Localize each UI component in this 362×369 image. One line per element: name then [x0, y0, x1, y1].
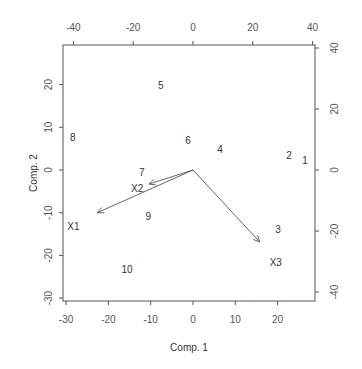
top-tick-label: -40 — [66, 22, 81, 33]
right-tick-label: 20 — [329, 103, 340, 115]
point-label: 6 — [185, 135, 191, 146]
y-tick-label: 20 — [43, 79, 54, 91]
right-tick-label: 40 — [329, 42, 340, 54]
top-tick-label: -20 — [126, 22, 141, 33]
point-label: 5 — [158, 80, 164, 91]
right-tick-label: -40 — [329, 284, 340, 299]
biplot-chart: -30-20-1001020-30-20-1001020-40-2002040-… — [0, 0, 362, 369]
x-axis-title: Comp. 1 — [170, 342, 208, 353]
point-label: 4 — [217, 144, 223, 155]
x-tick-label: 10 — [230, 314, 242, 325]
loading-arrow — [149, 170, 193, 184]
top-tick-label: 40 — [307, 22, 319, 33]
point-label: 3 — [275, 224, 281, 235]
top-tick-label: 20 — [247, 22, 259, 33]
axes: -30-20-1001020-30-20-1001020-40-2002040-… — [43, 22, 340, 325]
point-label: 2 — [286, 150, 292, 161]
x-tick-label: -10 — [143, 314, 158, 325]
y-tick-label: 10 — [43, 121, 54, 133]
point-label: 9 — [145, 211, 151, 222]
right-tick-label: 0 — [329, 167, 340, 173]
point-label: 10 — [121, 264, 133, 275]
variable-label: X1 — [67, 221, 80, 232]
x-tick-label: 20 — [272, 314, 284, 325]
top-tick-label: 0 — [190, 22, 196, 33]
x-tick-label: -20 — [101, 314, 116, 325]
loading-arrow — [193, 170, 260, 242]
variable-label: X3 — [270, 257, 283, 268]
x-tick-label: -30 — [59, 314, 74, 325]
y-axis-title: Comp. 2 — [28, 154, 39, 192]
y-tick-label: -20 — [43, 248, 54, 263]
variable-label: X2 — [131, 183, 144, 194]
x-tick-label: 0 — [190, 314, 196, 325]
loading-arrows: X1X2X3 — [67, 170, 282, 268]
y-tick-label: -10 — [43, 205, 54, 220]
loading-arrow — [97, 170, 193, 213]
point-label: 7 — [139, 167, 145, 178]
y-tick-label: -30 — [43, 290, 54, 305]
point-label: 8 — [70, 132, 76, 143]
point-label: 1 — [302, 155, 308, 166]
right-tick-label: -20 — [329, 223, 340, 238]
score-points: 12345678910 — [70, 80, 308, 276]
y-tick-label: 0 — [43, 167, 54, 173]
